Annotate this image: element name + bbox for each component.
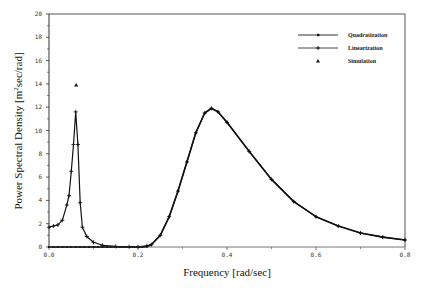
marker-square [126, 246, 127, 247]
marker-square [135, 246, 136, 247]
marker-square [131, 246, 132, 247]
marker-plus [76, 142, 80, 146]
marker-square [82, 246, 83, 247]
y-tick-label: 18 [35, 33, 43, 40]
marker-plus [74, 110, 78, 114]
y-tick-label: 20 [35, 10, 43, 17]
y-tick-label: 6 [38, 173, 42, 180]
marker-square [48, 246, 49, 247]
series-simulation [74, 83, 78, 87]
series-quadratization [48, 107, 406, 248]
marker-square [93, 246, 94, 247]
marker-square [117, 246, 118, 247]
legend-marker-triangle [316, 59, 320, 63]
legend-item-simulation: Simulation [316, 58, 377, 64]
marker-square [97, 246, 98, 247]
marker-square [95, 246, 96, 247]
legend-item-linearization: Linearization [298, 45, 383, 51]
marker-square [106, 246, 107, 247]
marker-plus [381, 235, 385, 239]
series-linearization [47, 106, 407, 248]
marker-square [64, 246, 65, 247]
marker-plus [71, 142, 75, 146]
y-tick-label: 2 [38, 220, 42, 227]
series-line [49, 108, 405, 246]
y-tick-label: 12 [35, 103, 43, 110]
y-axis-title: Power Spectral Density [m2sec/rad] [12, 52, 24, 209]
y-tick-label: 8 [38, 150, 42, 157]
marker-square [124, 246, 125, 247]
marker-square [108, 246, 109, 247]
marker-square [66, 246, 67, 247]
marker-square [122, 246, 123, 247]
marker-square [120, 246, 121, 247]
marker-square [133, 246, 134, 247]
marker-plus [47, 225, 51, 229]
marker-square [73, 246, 74, 247]
marker-square [129, 246, 130, 247]
marker-plus [80, 225, 84, 229]
marker-square [77, 246, 78, 247]
marker-square [137, 246, 138, 247]
y-tick-label: 16 [35, 57, 43, 64]
x-tick-label: 0.2 [133, 251, 144, 258]
marker-square [51, 246, 52, 247]
marker-plus [176, 189, 180, 193]
marker-plus [67, 194, 71, 198]
y-tick-label: 10 [35, 127, 43, 134]
marker-square [80, 246, 81, 247]
marker-square [53, 246, 54, 247]
x-tick-label: 0.0 [44, 251, 55, 258]
marker-square [86, 246, 87, 247]
legend-item-quadratization: Quadratization [298, 32, 388, 38]
marker-square [75, 246, 76, 247]
legend-label: Quadratization [348, 32, 388, 38]
legend-label: Simulation [348, 58, 377, 64]
marker-square [115, 246, 116, 247]
marker-square [88, 246, 89, 247]
legend-marker-plus [316, 46, 320, 50]
marker-square [102, 246, 103, 247]
marker-plus [69, 169, 73, 173]
marker-square [57, 246, 58, 247]
marker-plus [185, 160, 189, 164]
marker-square [100, 246, 101, 247]
marker-triangle [74, 83, 78, 87]
marker-square [62, 246, 63, 247]
marker-plus [403, 238, 407, 242]
marker-square [104, 246, 105, 247]
plot-series [47, 83, 407, 249]
legend: QuadratizationLinearizationSimulation [298, 32, 388, 64]
marker-square [55, 246, 56, 247]
marker-square [60, 246, 61, 247]
marker-square [68, 246, 69, 247]
marker-square [142, 246, 143, 247]
marker-plus [78, 201, 82, 205]
marker-plus [65, 203, 69, 207]
y-tick-label: 0 [38, 243, 42, 250]
marker-plus [51, 224, 55, 228]
y-tick-label: 14 [35, 80, 43, 87]
marker-square [84, 246, 85, 247]
marker-square [91, 246, 92, 247]
x-axis-title: Frequency [rad/sec] [183, 266, 271, 278]
x-tick-label: 0.4 [222, 251, 233, 258]
marker-square [140, 246, 141, 247]
legend-label: Linearization [348, 45, 383, 51]
series-line [49, 108, 405, 247]
x-tick-label: 0.8 [400, 251, 411, 258]
marker-square [113, 246, 114, 247]
x-tick-label: 0.6 [311, 251, 322, 258]
marker-square [111, 246, 112, 247]
legend-marker-square [317, 34, 319, 36]
marker-plus [359, 231, 363, 235]
marker-square [71, 246, 72, 247]
y-tick-label: 4 [38, 196, 42, 203]
marker-square [144, 246, 145, 247]
psd-chart: 024681012141618200.00.20.40.60.8 Quadrat… [0, 0, 423, 292]
